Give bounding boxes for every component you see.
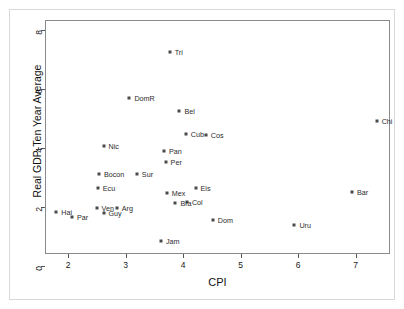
x-axis-tick <box>183 254 184 258</box>
x-axis-tick-label: 6 <box>288 260 308 270</box>
x-axis-label: CPI <box>45 276 390 288</box>
x-axis-tick <box>298 254 299 258</box>
y-axis-label: Real GDP-Ten Year Average <box>31 31 43 231</box>
axis-layer: 23456702468 <box>0 0 404 309</box>
x-axis-tick <box>241 254 242 258</box>
x-axis-tick-label: 4 <box>173 260 193 270</box>
x-axis-tick-label: 7 <box>346 260 366 270</box>
x-axis-tick <box>356 254 357 258</box>
scatter-plot-figure: TriDomRBelCubCosNicPanPerBoconSurEcuEisM… <box>0 0 404 309</box>
y-axis-tick-label: 0 <box>34 266 44 286</box>
x-axis-tick <box>68 254 69 258</box>
x-axis-tick-label: 3 <box>116 260 136 270</box>
x-axis-tick-label: 5 <box>231 260 251 270</box>
x-axis-tick-label: 2 <box>58 260 78 270</box>
x-axis-tick <box>126 254 127 258</box>
